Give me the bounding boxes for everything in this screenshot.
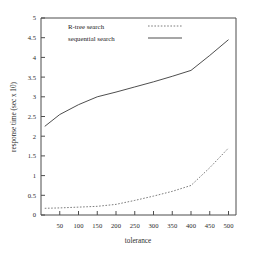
legend-label-sequential-search: sequential search — [68, 35, 115, 42]
y-axis-tick-label: 1 — [33, 172, 36, 179]
x-axis-tick-label: 300 — [149, 222, 160, 229]
x-axis-tick-label: 250 — [130, 222, 141, 229]
y-axis-tick-label: 2.5 — [28, 113, 37, 120]
y-axis-tick-label: 2 — [33, 133, 36, 140]
y-axis-tick-label: 4.5 — [28, 34, 37, 41]
x-axis-tick-label: 200 — [111, 222, 122, 229]
y-axis-tick-label: 0.5 — [28, 192, 37, 199]
y-axis-tick-label: 3.5 — [28, 74, 37, 81]
legend-label-rtree-search: R-tree search — [68, 23, 105, 30]
x-axis-tick-label: 400 — [186, 222, 197, 229]
line-chart: 00.511.522.533.544.55 501001502002503003… — [0, 0, 260, 259]
x-axis-tick-label: 50 — [56, 222, 63, 229]
x-axis-title: tolerance — [125, 237, 151, 245]
y-axis-title: response time (sec x 10) — [10, 81, 18, 151]
x-axis-tick-label: 450 — [205, 222, 216, 229]
x-axis-tick-label: 350 — [167, 222, 178, 229]
chart-container: 00.511.522.533.544.55 501001502002503003… — [0, 0, 260, 259]
y-axis-tick-label: 1.5 — [28, 152, 37, 159]
x-axis-tick-label: 150 — [92, 222, 103, 229]
chart-background — [0, 0, 260, 259]
x-axis-tick-label: 100 — [74, 222, 85, 229]
x-axis-tick-label: 500 — [224, 222, 235, 229]
